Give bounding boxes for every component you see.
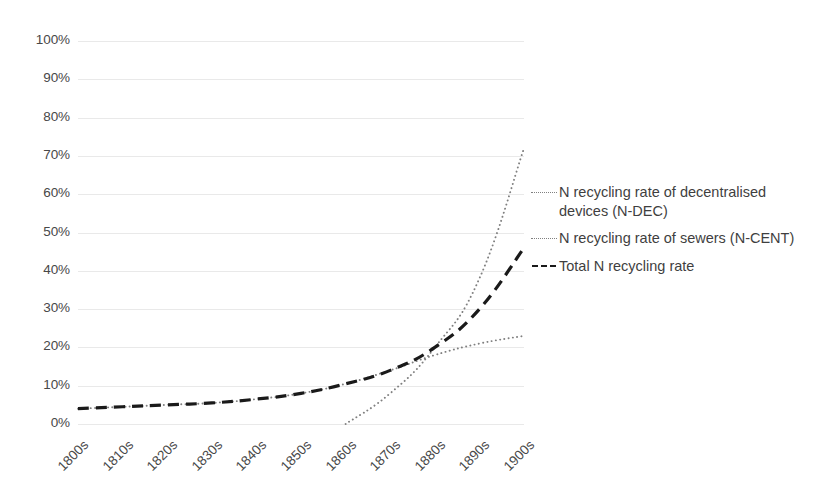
legend-item-n-dec[interactable]: N recycling rate of decentralised device… [531, 183, 823, 220]
series-line [78, 248, 524, 409]
legend-item-label: N recycling rate of decentralised device… [559, 183, 809, 220]
dotted-line-icon [531, 229, 557, 248]
legend-item-n-cent[interactable]: N recycling rate of sewers (N-CENT) [531, 229, 823, 248]
legend-item-label: N recycling rate of sewers (N-CENT) [559, 229, 809, 248]
legend-item-total[interactable]: Total N recycling rate [531, 257, 823, 276]
dotted-line-icon [531, 183, 557, 202]
series-line [78, 336, 524, 409]
chart-container: 100%90%80%70%60%50%40%30%20%10%0% 1800s1… [0, 0, 827, 504]
chart-legend: N recycling rate of decentralised device… [531, 183, 823, 285]
legend-item-label: Total N recycling rate [559, 257, 694, 276]
dashed-line-icon [531, 257, 557, 276]
